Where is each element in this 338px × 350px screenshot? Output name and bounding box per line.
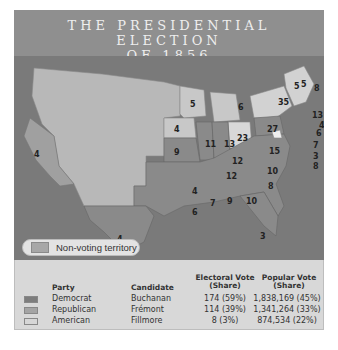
us-map-svg: 4 4 4 5 6 9 11 13 23 27 35 5 5 8 13 4 6 … <box>14 56 324 260</box>
header-popular-line2: (Share) <box>254 282 324 290</box>
svg-text:8: 8 <box>313 162 319 171</box>
candidate-cell: Frémont <box>131 305 164 314</box>
party-cell: Republican <box>52 305 96 314</box>
header-electoral: Electoral Vote (Share) <box>190 274 260 290</box>
svg-text:3: 3 <box>313 152 319 161</box>
svg-text:10: 10 <box>267 167 279 176</box>
svg-text:13: 13 <box>224 140 235 149</box>
electoral-cell: 114 (39%) <box>194 305 256 314</box>
svg-text:3: 3 <box>260 232 266 241</box>
header-party: Party <box>52 284 75 292</box>
non-voting-label: Non-voting territory <box>56 242 137 253</box>
svg-text:13: 13 <box>312 111 323 120</box>
party-cell: Democrat <box>52 294 92 303</box>
popular-cell: 1,341,264 (33%) <box>250 305 324 314</box>
svg-text:23: 23 <box>237 134 248 143</box>
svg-text:35: 35 <box>278 98 290 107</box>
electoral-cell: 8 (3%) <box>194 316 256 325</box>
svg-text:8: 8 <box>314 84 320 93</box>
svg-text:12: 12 <box>232 157 243 166</box>
svg-text:9: 9 <box>174 148 180 157</box>
table-row: American Fillmore 8 (3%) 874,534 (22%) <box>14 316 324 327</box>
svg-text:12: 12 <box>226 172 237 181</box>
svg-text:11: 11 <box>205 140 217 149</box>
candidate-cell: Buchanan <box>131 294 171 303</box>
map-title: THE PRESIDENTIAL ELECTION OF 1856 <box>14 10 324 56</box>
table-row: Republican Frémont 114 (39%) 1,341,264 (… <box>14 305 324 316</box>
state-iowa <box>164 118 196 138</box>
header-electoral-line2: (Share) <box>190 282 260 290</box>
svg-text:5: 5 <box>190 100 196 109</box>
results-table: Party Candidate Electoral Vote (Share) P… <box>14 264 324 330</box>
state-michigan <box>210 92 240 122</box>
svg-text:9: 9 <box>227 197 233 206</box>
candidate-cell: Fillmore <box>131 316 162 325</box>
svg-text:6: 6 <box>238 103 244 112</box>
state-missouri <box>164 138 200 162</box>
title-line-1: THE PRESIDENTIAL ELECTION <box>14 18 324 48</box>
svg-text:27: 27 <box>267 125 278 134</box>
svg-text:5: 5 <box>294 82 300 91</box>
non-voting-swatch <box>31 242 49 253</box>
american-swatch <box>24 318 38 325</box>
svg-text:4: 4 <box>192 187 198 196</box>
svg-text:15: 15 <box>269 147 281 156</box>
svg-text:6: 6 <box>192 208 198 217</box>
svg-text:7: 7 <box>210 199 216 208</box>
electoral-cell: 174 (59%) <box>194 294 256 303</box>
header-popular: Popular Vote (Share) <box>254 274 324 290</box>
svg-text:10: 10 <box>246 197 258 206</box>
svg-text:4: 4 <box>174 125 180 134</box>
table-row: Democrat Buchanan 174 (59%) 1,838,169 (4… <box>14 294 324 305</box>
popular-cell: 874,534 (22%) <box>250 316 324 325</box>
popular-cell: 1,838,169 (45%) <box>250 294 324 303</box>
republican-swatch <box>24 307 38 314</box>
party-cell: American <box>52 316 90 325</box>
election-map: 4 4 4 5 6 9 11 13 23 27 35 5 5 8 13 4 6 … <box>14 56 324 260</box>
svg-text:6: 6 <box>316 129 322 138</box>
header-candidate: Candidate <box>131 284 174 292</box>
svg-text:5: 5 <box>301 80 307 89</box>
svg-text:8: 8 <box>268 182 274 191</box>
democrat-swatch <box>24 296 38 303</box>
non-voting-legend: Non-voting territory <box>22 239 140 256</box>
svg-text:7: 7 <box>313 141 319 150</box>
svg-text:4: 4 <box>34 150 40 159</box>
